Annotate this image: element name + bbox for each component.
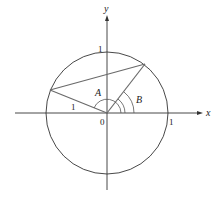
x-axis-arrow-icon: [197, 111, 203, 115]
segment-length-label: 1: [71, 102, 76, 112]
x-tick-one: 1: [169, 117, 174, 127]
origin-label: 0: [100, 117, 105, 127]
unit-circle-diagram: y x 1 0 1 1 A B: [0, 0, 220, 197]
y-axis-arrow-icon: [105, 15, 109, 21]
angle-a-label: A: [94, 87, 102, 98]
y-axis-label: y: [103, 3, 109, 14]
y-tick-one: 1: [98, 44, 103, 54]
x-axis-label: x: [205, 107, 211, 118]
x-axis: [15, 111, 203, 115]
angle-b-label: B: [136, 94, 142, 105]
segment-o-p2: [107, 64, 145, 113]
y-axis: [105, 15, 109, 190]
angle-a-arc: [94, 99, 121, 113]
